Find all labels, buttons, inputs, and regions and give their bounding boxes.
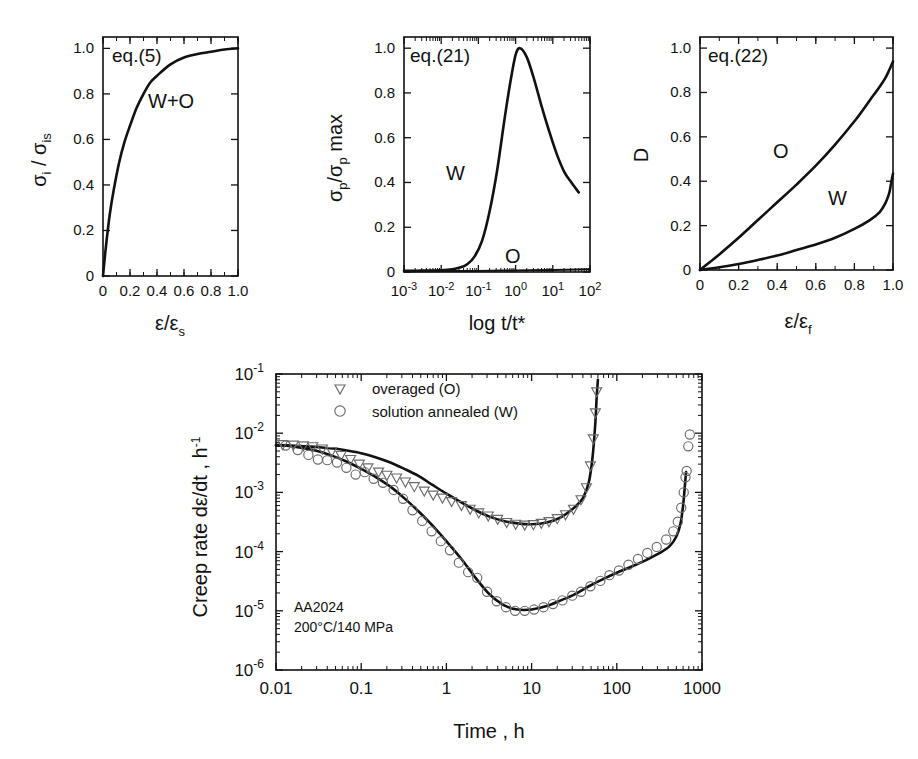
p2-ylabel-slash-sigma: /σ — [324, 164, 346, 183]
svg-text:0: 0 — [99, 282, 107, 299]
p1-x-tick-labels: 00.20.40.60.81.0 — [99, 282, 249, 299]
p1-frame — [103, 37, 238, 276]
svg-text:0.6: 0.6 — [670, 128, 691, 145]
svg-text:10-4: 10-4 — [234, 539, 264, 562]
p1-ylabel-sigma2: σ — [28, 142, 50, 155]
svg-text:0: 0 — [683, 261, 691, 278]
p3-x-tick-labels: 00.20.40.60.81.0 — [696, 276, 904, 293]
svg-text:Creep rate dε/dt , h-1: Creep rate dε/dt , h-1 — [189, 436, 211, 617]
mp-annotation-alloy: AA2024 — [294, 599, 344, 615]
p1-equation-label: eq.(5) — [112, 45, 162, 66]
p3-axis-ticks — [700, 37, 893, 270]
svg-text:0.4: 0.4 — [670, 172, 691, 189]
p1-ylabel-sub-is: is — [39, 133, 54, 143]
mp-ylabel-prefix: Creep rate d — [189, 506, 211, 617]
panel-eq21-svg: eq.(21) W O 00.20.40.60.81.0 10-310-210-… — [300, 0, 610, 360]
p2-equation-label: eq.(21) — [410, 45, 470, 66]
svg-text:1000: 1000 — [683, 679, 721, 698]
svg-text:101: 101 — [541, 280, 564, 299]
mp-legend-label-solution-annealed: solution annealed (W) — [372, 403, 518, 420]
mp-x-tick-labels: 0.010.11101001000 — [259, 679, 720, 698]
svg-text:10-5: 10-5 — [234, 598, 264, 621]
svg-text:0.6: 0.6 — [73, 130, 94, 147]
p1-y-tick-labels: 00.20.40.60.81.0 — [73, 39, 94, 284]
p2-ylabel-sub-p2: p — [335, 157, 350, 164]
svg-text:0: 0 — [86, 267, 94, 284]
mp-y-tick-labels: 10-110-210-310-410-510-6 — [234, 361, 264, 680]
p1-x-axis-title: ε/εs — [155, 312, 185, 339]
svg-text:σi / σis: σi / σis — [28, 133, 54, 187]
svg-text:0.6: 0.6 — [374, 129, 395, 146]
svg-text:0.2: 0.2 — [670, 217, 691, 234]
svg-text:10-3: 10-3 — [234, 479, 264, 502]
mp-legend-label-overaged: overaged (O) — [372, 380, 460, 397]
p3-frame — [700, 37, 893, 270]
creep-plot-svg: overaged (O) solution annealed (W) AA202… — [0, 355, 918, 759]
p2-x-axis-title: log t/t* — [469, 312, 526, 334]
svg-text:0.2: 0.2 — [374, 218, 395, 235]
p3-y-tick-labels: 00.20.40.60.81.0 — [670, 39, 691, 278]
svg-text:0.01: 0.01 — [259, 679, 292, 698]
panel-eq21: eq.(21) W O 00.20.40.60.81.0 10-310-210-… — [300, 0, 610, 360]
svg-text:0.2: 0.2 — [120, 282, 141, 299]
svg-text:0.8: 0.8 — [844, 276, 865, 293]
svg-text:10: 10 — [522, 679, 541, 698]
p2-curve-label-w: W — [446, 162, 465, 184]
svg-text:0.1: 0.1 — [349, 679, 373, 698]
p1-xlabel-sub: s — [178, 324, 185, 339]
p2-axis-ticks — [404, 37, 590, 272]
p3-x-axis-title: ε/εf — [784, 310, 811, 337]
svg-text:0.8: 0.8 — [73, 85, 94, 102]
p3-ylabel: D — [630, 148, 652, 162]
p2-curve-label-o: O — [505, 245, 521, 267]
p2-frame — [404, 37, 590, 272]
svg-text:0.8: 0.8 — [670, 83, 691, 100]
svg-text:σp/σp max: σp/σp max — [324, 114, 350, 202]
svg-text:1.0: 1.0 — [374, 39, 395, 56]
svg-text:10-2: 10-2 — [428, 280, 454, 299]
p1-y-axis-title: σi / σis — [28, 133, 54, 187]
mp-ylabel-exp: -1 — [189, 436, 203, 447]
mp-x-axis-title: Time , h — [453, 720, 525, 742]
mp-legend: overaged (O) solution annealed (W) — [335, 380, 518, 420]
svg-text:0.2: 0.2 — [728, 276, 749, 293]
p3-curve-label-o: O — [773, 140, 789, 162]
mp-ylabel-eps: ε — [189, 497, 211, 506]
circle-marker — [335, 406, 345, 416]
svg-text:1.0: 1.0 — [228, 282, 249, 299]
svg-text:0.6: 0.6 — [805, 276, 826, 293]
p3-curve-o — [700, 61, 893, 270]
p2-ylabel-sigma: σ — [324, 189, 346, 202]
svg-text:10-6: 10-6 — [234, 657, 264, 680]
p1-axis-ticks — [103, 37, 238, 276]
svg-text:1.0: 1.0 — [670, 39, 691, 56]
panel-eq5: eq.(5) W+O 00.20.40.60.81.0 00.20.40.60.… — [0, 0, 300, 360]
svg-text:1.0: 1.0 — [73, 39, 94, 56]
p3-curve-w — [700, 173, 893, 270]
svg-text:102: 102 — [579, 280, 602, 299]
panel-eq5-svg: eq.(5) W+O 00.20.40.60.81.0 00.20.40.60.… — [0, 0, 300, 360]
svg-text:0.2: 0.2 — [73, 221, 94, 238]
svg-text:100: 100 — [504, 280, 527, 299]
p3-curve-label-w: W — [828, 187, 847, 209]
creep-rate-plot: overaged (O) solution annealed (W) AA202… — [0, 355, 918, 759]
mp-annotation-conditions: 200°C/140 MPa — [294, 619, 393, 635]
svg-text:0: 0 — [696, 276, 704, 293]
svg-text:1.0: 1.0 — [883, 276, 904, 293]
svg-text:0: 0 — [387, 263, 395, 280]
svg-text:0.6: 0.6 — [174, 282, 195, 299]
p1-ylabel-slash: / — [28, 155, 50, 172]
svg-text:0.8: 0.8 — [374, 84, 395, 101]
p3-equation-label: eq.(22) — [708, 45, 768, 66]
svg-text:0.4: 0.4 — [73, 176, 94, 193]
p2-curve-w — [404, 48, 579, 271]
p1-curve-w-plus-o — [103, 48, 238, 276]
svg-text:1: 1 — [442, 679, 451, 698]
p2-ylabel-max: max — [324, 114, 346, 157]
svg-text:10-1: 10-1 — [234, 361, 264, 384]
svg-text:100: 100 — [603, 679, 631, 698]
panel-eq22-svg: eq.(22) O W 00.20.40.60.81.0 00.20.40.60… — [610, 0, 918, 360]
svg-text:10-2: 10-2 — [234, 420, 264, 443]
p3-y-axis-title: D — [630, 148, 652, 162]
p1-curve-label: W+O — [148, 90, 194, 112]
